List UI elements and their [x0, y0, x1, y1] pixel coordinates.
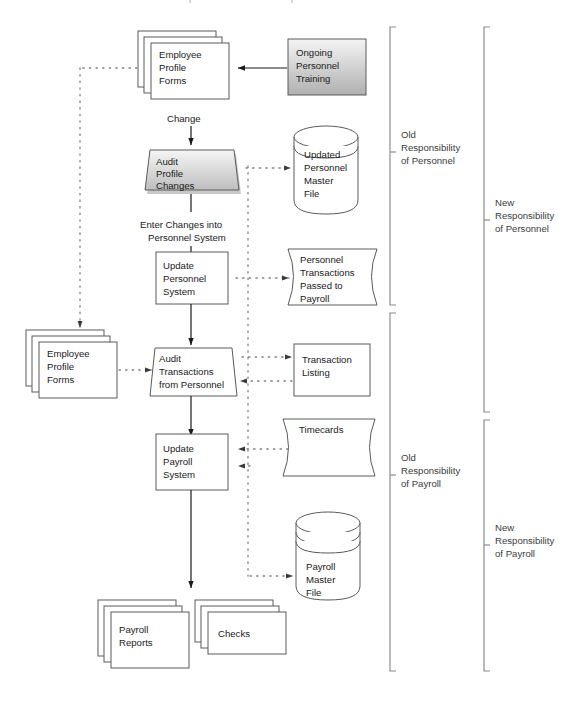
- node-label-line: Profile: [47, 361, 74, 372]
- node-label-line: Payroll: [300, 293, 329, 304]
- node-label-line: Forms: [159, 75, 186, 86]
- bracket-label-line: of Payroll: [495, 548, 535, 559]
- bracket-new-responsibility-of-personnel: New Responsibility of Personnel: [484, 27, 554, 412]
- node-label-line: Training: [296, 73, 330, 84]
- node-label-line: Updated: [304, 149, 340, 160]
- node-label-line: Passed to: [300, 280, 343, 291]
- flow-enter-changes: Enter Changes into Personnel System: [140, 194, 226, 260]
- node-audit-profile-changes[interactable]: Audit Profile Changes: [145, 150, 241, 194]
- node-checks[interactable]: Checks: [195, 600, 286, 654]
- bracket-label-line: Responsibility: [495, 535, 554, 546]
- node-label-line: Transactions: [300, 267, 355, 278]
- node-label-line: Audit: [156, 156, 178, 167]
- node-label-line: Transaction: [302, 354, 352, 365]
- node-timecards[interactable]: Timecards: [283, 419, 375, 476]
- flow-label-enter-changes-2: Personnel System: [148, 232, 226, 243]
- node-label-line: Update: [163, 260, 194, 271]
- bracket-label-line: Responsibility: [401, 142, 460, 153]
- flow-change: Change: [167, 113, 201, 145]
- node-label-line: Personnel: [296, 60, 339, 71]
- node-label-line: Audit: [159, 353, 181, 364]
- node-label-line: Personnel: [300, 254, 343, 265]
- node-update-payroll-system[interactable]: Update Payroll System: [156, 434, 228, 490]
- node-label-line: Forms: [47, 374, 74, 385]
- node-transaction-listing[interactable]: Transaction Listing: [294, 344, 370, 396]
- node-label-line: Transactions: [159, 366, 214, 377]
- node-label-line: Checks: [218, 628, 250, 639]
- node-employee-profile-forms-top[interactable]: Employee Profile Forms: [138, 31, 229, 99]
- node-label-line: Profile: [159, 62, 186, 73]
- bracket-label-line: of Personnel: [401, 155, 455, 166]
- node-label-line: File: [304, 188, 319, 199]
- node-label-line: System: [163, 286, 195, 297]
- node-label-line: Personnel: [304, 162, 347, 173]
- bracket-label-line: Old: [401, 129, 416, 140]
- node-label-line: File: [306, 587, 321, 598]
- node-label-line: Employee: [47, 348, 90, 359]
- node-label-line: Timecards: [299, 424, 344, 435]
- node-label-line: Listing: [302, 367, 330, 378]
- bracket-label-line: New: [495, 522, 514, 533]
- bracket-old-responsibility-of-personnel: Old Responsibility of Personnel: [390, 27, 460, 305]
- node-label-line: Payroll: [306, 561, 335, 572]
- node-label-line: Profile: [156, 168, 183, 179]
- bracket-new-responsibility-of-payroll: New Responsibility of Payroll: [484, 420, 554, 671]
- bracket-label-line: of Payroll: [401, 478, 441, 489]
- node-payroll-master-file[interactable]: Payroll Master File: [296, 512, 360, 600]
- node-personnel-transactions-passed-to-payroll[interactable]: Personnel Transactions Passed to Payroll: [288, 249, 377, 305]
- node-label-line: Reports: [119, 637, 153, 648]
- node-label-line: Payroll: [119, 624, 148, 635]
- node-label-line: Ongoing: [296, 47, 332, 58]
- bracket-old-responsibility-of-payroll: Old Responsibility of Payroll: [390, 313, 460, 671]
- node-label-line: Master: [304, 175, 334, 186]
- bracket-label-line: of Personnel: [495, 223, 549, 234]
- node-label-line: Employee: [159, 49, 202, 60]
- payroll-personnel-flowchart: Employee Profile Forms Ongoing Personnel…: [0, 0, 577, 706]
- flow-label-change: Change: [167, 113, 201, 124]
- node-payroll-reports[interactable]: Payroll Reports: [98, 600, 189, 668]
- node-label-line: Payroll: [163, 456, 192, 467]
- flow-label-enter-changes-1: Enter Changes into: [140, 219, 222, 230]
- node-label-line: from Personnel: [159, 379, 224, 390]
- bracket-label-line: Responsibility: [495, 210, 554, 221]
- bracket-label-line: Responsibility: [401, 465, 460, 476]
- bracket-label-line: New: [495, 197, 514, 208]
- node-label-line: Update: [163, 443, 194, 454]
- node-label-line: System: [163, 469, 195, 480]
- node-label-line: Personnel: [163, 273, 206, 284]
- node-label-line: Changes: [156, 180, 195, 191]
- node-ongoing-personnel-training[interactable]: Ongoing Personnel Training: [288, 39, 366, 95]
- node-label-line: Master: [306, 574, 336, 585]
- node-employee-profile-forms-left[interactable]: Employee Profile Forms: [26, 330, 117, 398]
- node-audit-transactions-from-personnel[interactable]: Audit Transactions from Personnel: [150, 348, 237, 396]
- dotted-forms-feedback: [80, 68, 137, 328]
- bracket-label-line: Old: [401, 452, 416, 463]
- node-update-personnel-system[interactable]: Update Personnel System: [156, 252, 228, 304]
- node-updated-personnel-master-file[interactable]: Updated Personnel Master File: [294, 126, 358, 214]
- top-cropped-artifact: [190, 0, 292, 3]
